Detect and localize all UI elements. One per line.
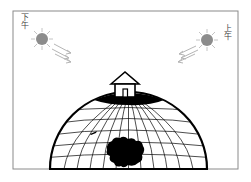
house-icon [111, 72, 139, 97]
morning-label: 上午 [222, 24, 231, 40]
afternoon-label: 下午 [19, 13, 28, 29]
light-rays-arrows-left [52, 44, 71, 63]
diagram-scene: 下午 上午 [0, 0, 251, 182]
light-rays-arrows-right [178, 46, 198, 63]
sun-icon [196, 29, 218, 51]
globe-icon [40, 92, 217, 169]
sun-icon [31, 28, 53, 50]
